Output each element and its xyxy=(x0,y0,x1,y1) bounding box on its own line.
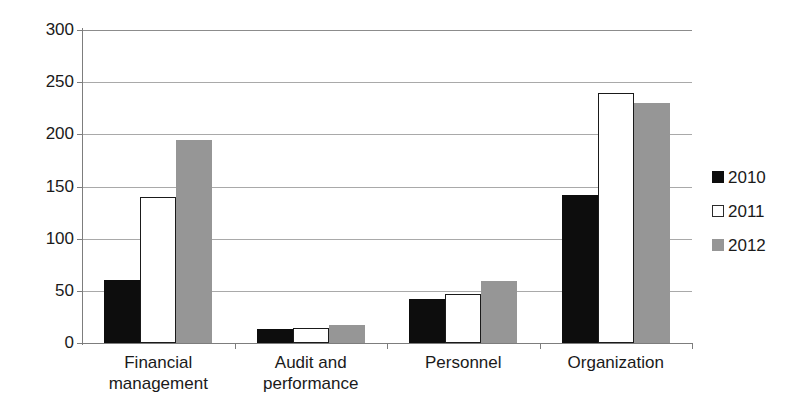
bar-2010-financial-management xyxy=(104,280,140,343)
y-axis-tick-label: 100 xyxy=(14,230,74,247)
bar-2011-personnel xyxy=(445,294,481,343)
bar-2012-financial-management xyxy=(176,140,212,343)
x-axis-label-line: Personnel xyxy=(387,352,540,373)
x-axis-line xyxy=(82,343,693,344)
x-axis-label-audit-and-performance: Audit andperformance xyxy=(235,352,388,394)
bar-2011-audit-and-performance xyxy=(293,328,329,343)
bar-group xyxy=(235,30,388,343)
legend-item-2011[interactable]: 2011 xyxy=(712,194,766,228)
bar-2010-personnel xyxy=(409,299,445,343)
legend-label: 2011 xyxy=(728,203,765,220)
bar-2010-organization xyxy=(562,195,598,343)
bar-2010-audit-and-performance xyxy=(257,329,293,343)
bar-2012-audit-and-performance xyxy=(329,325,365,343)
x-axis-label-line: performance xyxy=(235,373,388,394)
x-axis-label-line: management xyxy=(82,373,235,394)
x-axis-label-line: Financial xyxy=(82,352,235,373)
bar-group xyxy=(82,30,235,343)
x-axis-label-line: Organization xyxy=(540,352,693,373)
legend-label: 2010 xyxy=(728,169,766,186)
bar-2011-organization xyxy=(598,93,634,343)
legend-label: 2012 xyxy=(728,237,766,254)
y-axis-tick-label: 200 xyxy=(14,125,74,142)
y-axis-tick-label: 300 xyxy=(14,21,74,38)
bar-group xyxy=(387,30,540,343)
legend-item-2012[interactable]: 2012 xyxy=(712,228,766,262)
bar-2012-personnel xyxy=(481,281,517,343)
legend: 201020112012 xyxy=(712,160,766,262)
y-axis-tick-label: 250 xyxy=(14,73,74,90)
legend-swatch-icon xyxy=(712,205,724,217)
y-axis-tick-label: 0 xyxy=(14,334,74,351)
legend-swatch-icon xyxy=(712,239,724,251)
legend-item-2010[interactable]: 2010 xyxy=(712,160,766,194)
plot-area xyxy=(82,30,692,343)
y-axis-tick-label: 150 xyxy=(14,178,74,195)
legend-swatch-icon xyxy=(712,171,724,183)
x-axis-label-financial-management: Financialmanagement xyxy=(82,352,235,394)
bar-2011-financial-management xyxy=(140,197,176,343)
x-axis-label-line: Audit and xyxy=(235,352,388,373)
y-axis-tick-label: 50 xyxy=(14,282,74,299)
bar-2012-organization xyxy=(634,103,670,343)
x-axis-label-personnel: Personnel xyxy=(387,352,540,373)
x-axis-label-organization: Organization xyxy=(540,352,693,373)
bar-chart: 300250200150100500 FinancialmanagementAu… xyxy=(0,0,803,417)
bar-group xyxy=(540,30,693,343)
y-axis-line xyxy=(82,28,83,345)
